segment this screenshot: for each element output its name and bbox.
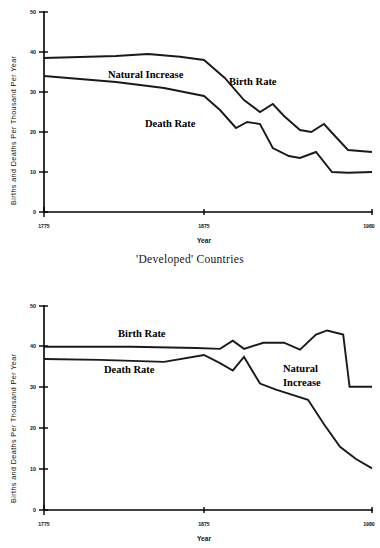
annotation-death-rate-top: Death Rate [145, 118, 196, 129]
annotation-natural-bottom: Natural [283, 363, 318, 374]
y-tick-label-20-top: 20 [30, 129, 36, 135]
y-tick-label-40-bottom: 40 [30, 343, 36, 349]
series-death-rate-bottom [44, 355, 372, 468]
y-axis-title-top: Births and Deaths Per Thousand Per Year [9, 55, 18, 205]
y-tick-label-0-top: 0 [33, 209, 36, 215]
y-tick-label-20-bottom: 20 [30, 425, 36, 431]
series-birth-rate-bottom [44, 330, 372, 386]
annotation-birth-rate-top: Birth Rate [229, 76, 277, 87]
y-tick-label-30-bottom: 30 [30, 384, 36, 390]
chart-developing-svg: Births and Deaths Per Thousand Per Year … [0, 288, 380, 548]
x-tick-label-1980-bottom: 1980 [363, 521, 375, 527]
chart-developing-countries: Births and Deaths Per Thousand Per Year … [0, 288, 380, 548]
y-tick-label-50-top: 50 [30, 9, 36, 15]
x-tick-label-1775-top: 1775 [38, 223, 50, 229]
y-tick-label-10-bottom: 10 [30, 466, 36, 472]
annotation-increase-bottom: Increase [283, 377, 321, 388]
x-tick-label-1875-bottom: 1875 [198, 521, 210, 527]
y-axis-title-bottom: Births and Deaths Per Thousand Per Year [9, 353, 18, 503]
y-tick-label-40-top: 40 [30, 49, 36, 55]
x-tick-label-1980-top: 1980 [363, 223, 375, 229]
x-axis-title-top: Year [197, 237, 211, 244]
chart-developed-countries: Births and Deaths Per Thousand Per Year … [0, 0, 380, 248]
y-tick-label-0-bottom: 0 [33, 507, 36, 513]
annotation-birth-rate-bottom: Birth Rate [118, 328, 166, 339]
y-tick-label-30-top: 30 [30, 89, 36, 95]
x-tick-label-1775-bottom: 1775 [38, 521, 50, 527]
y-tick-label-50-bottom: 50 [30, 303, 36, 309]
chart-developed-svg: Births and Deaths Per Thousand Per Year … [0, 0, 380, 248]
annotation-natural-increase-top: Natural Increase [108, 69, 184, 80]
x-axis-title-bottom: Year [197, 535, 211, 542]
annotation-death-rate-bottom: Death Rate [104, 364, 155, 375]
caption-developed-countries: 'Developed' Countries [0, 253, 380, 265]
x-tick-label-1875-top: 1875 [198, 223, 210, 229]
series-birth-rate-top [44, 54, 372, 152]
y-tick-label-10-top: 10 [30, 169, 36, 175]
figure-page: Births and Deaths Per Thousand Per Year … [0, 0, 380, 548]
